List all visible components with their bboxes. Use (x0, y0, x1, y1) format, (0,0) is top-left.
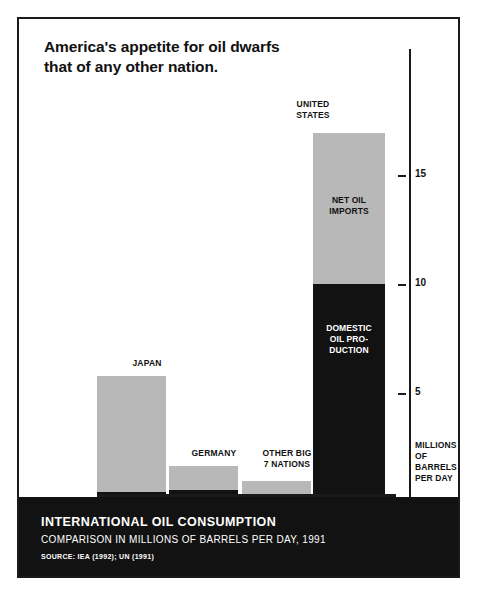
bar-other-big-7[interactable] (242, 481, 311, 494)
axis-title: MILLIONS OF BARRELS PER DAY (415, 440, 457, 484)
bar-germany[interactable] (169, 466, 238, 494)
legend-label-domestic-oil-production: DOMESTIC OIL PRO- DUCTION (313, 323, 385, 356)
axis-tick-label-15: 15 (415, 168, 426, 179)
bar-germany-segment-imports (169, 466, 238, 490)
category-label-united-states: UNITED STATES (263, 99, 363, 121)
axis-tick-15 (398, 175, 406, 177)
axis-title-line-4: PER DAY (415, 473, 457, 484)
plot-area: JAPAN GERMANY OTHER BIG 7 NATIONS UNITED… (19, 19, 460, 578)
legend-label-domestic-oil-production-line-3: DUCTION (313, 345, 385, 356)
footer-subtitle: COMPARISON IN MILLIONS OF BARRELS PER DA… (41, 534, 326, 545)
axis-tick-5 (398, 393, 406, 395)
axis-vertical-line (409, 49, 411, 497)
bar-united-states-segment-domestic (313, 284, 385, 494)
axis-title-line-2: OF (415, 451, 457, 462)
bar-japan[interactable] (97, 376, 166, 494)
bar-japan-segment-imports (97, 376, 166, 492)
legend-label-net-oil-imports: NET OIL IMPORTS (313, 195, 385, 217)
bar-other-big-7-segment-imports (242, 481, 311, 494)
footer-title: INTERNATIONAL OIL CONSUMPTION (41, 515, 276, 529)
legend-label-domestic-oil-production-line-2: OIL PRO- (313, 334, 385, 345)
category-label-japan: JAPAN (97, 358, 197, 369)
axis-title-line-1: MILLIONS (415, 440, 457, 451)
category-label-united-states-line-1: UNITED (263, 99, 363, 110)
category-label-united-states-line-2: STATES (263, 110, 363, 121)
axis-tick-10 (398, 284, 406, 286)
axis-tick-label-10: 10 (415, 277, 426, 288)
footer-caption: INTERNATIONAL OIL CONSUMPTION COMPARISON… (19, 497, 458, 578)
axis-tick-label-5: 5 (415, 386, 421, 397)
legend-label-domestic-oil-production-line-1: DOMESTIC (313, 323, 385, 334)
category-label-japan-line-1: JAPAN (97, 358, 197, 369)
legend-label-net-oil-imports-line-1: NET OIL (313, 195, 385, 206)
legend-label-net-oil-imports-line-2: IMPORTS (313, 206, 385, 217)
bar-united-states[interactable]: NET OIL IMPORTS DOMESTIC OIL PRO- DUCTIO… (313, 133, 385, 494)
axis-title-line-3: BARRELS (415, 462, 457, 473)
footer-source: SOURCE: IEA (1992); UN (1991) (41, 553, 154, 560)
chart-frame: America's appetite for oil dwarfs that o… (17, 17, 460, 578)
